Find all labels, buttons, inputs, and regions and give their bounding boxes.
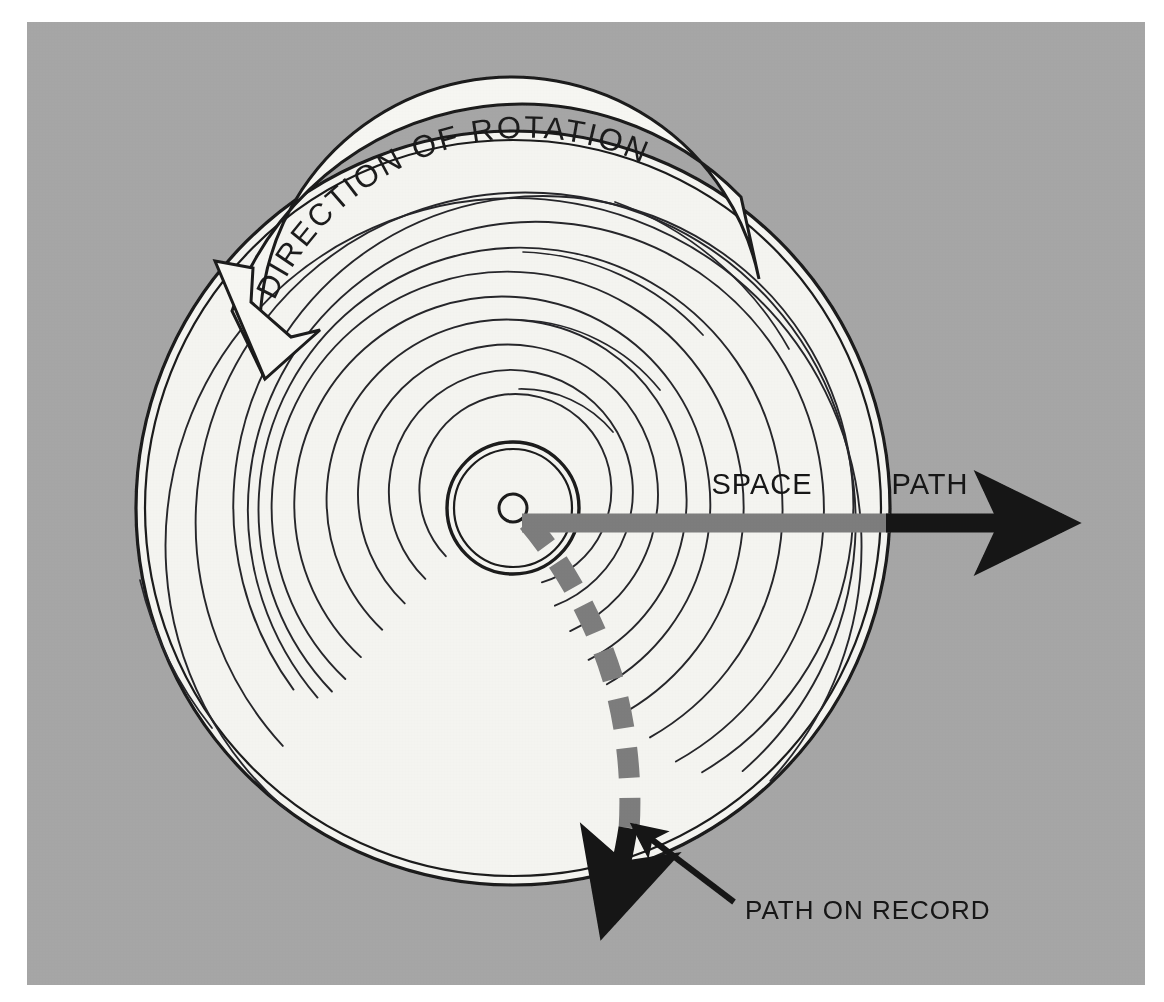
path-label: PATH xyxy=(891,468,968,500)
figure-root: DIRECTION OF ROTATION SPACE PATH xyxy=(0,0,1164,1002)
space-label: SPACE xyxy=(711,468,812,500)
record-center-label xyxy=(447,442,579,574)
record-diagram-canvas: DIRECTION OF ROTATION SPACE PATH xyxy=(0,0,1164,1002)
path-on-record-label: PATH ON RECORD xyxy=(745,895,991,925)
